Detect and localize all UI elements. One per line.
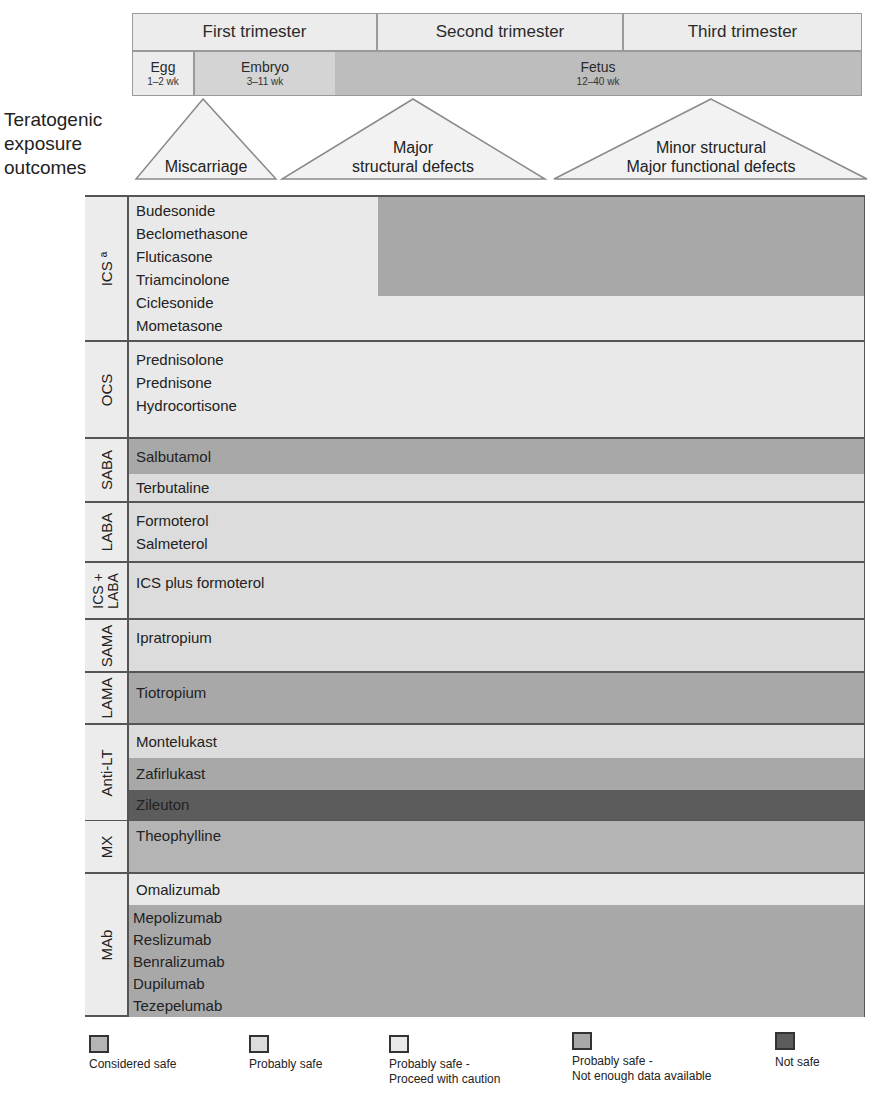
group-label: OCS: [85, 342, 129, 437]
legend-label: Not safe: [775, 1055, 820, 1070]
group-saba: SABA Salbutamol Terbutaline: [85, 437, 865, 501]
stage-name: Embryo: [241, 60, 289, 75]
legend: Considered safe Probably safe Probably s…: [85, 1035, 865, 1110]
group-ics: ICS ª Budesonide Beclomethasone Fluticas…: [85, 195, 865, 340]
drug-row: Omalizumab: [129, 874, 864, 905]
group-lama: LAMA Tiotropium: [85, 671, 865, 723]
drug-row: Prednisolone: [129, 348, 864, 371]
group-label-text: LAMA: [99, 678, 114, 719]
legend-swatch: [249, 1035, 269, 1053]
stage-fetus: Fetus 12–40 wk: [335, 52, 861, 95]
legend-item-not-safe: Not safe: [775, 1032, 820, 1070]
drug-row: Tiotropium: [129, 681, 864, 704]
nodata-region: Mepolizumab Reslizumab Benralizumab Dupi…: [129, 905, 864, 1017]
group-body: Prednisolone Prednisone Hydrocortisone: [129, 342, 865, 437]
group-body: Omalizumab Mepolizumab Reslizumab Benral…: [129, 874, 865, 1015]
group-ics-laba: ICS + LABA ICS plus formoterol: [85, 561, 865, 618]
drug-row: Theophylline: [129, 824, 864, 847]
group-label: ICS ª: [85, 197, 129, 340]
drug-row: Mepolizumab: [129, 907, 864, 929]
group-label-text: LABA: [99, 513, 114, 551]
group-body: Salbutamol Terbutaline: [129, 439, 865, 501]
group-sama: SAMA Ipratropium: [85, 618, 865, 671]
stage-egg: Egg 1–2 wk: [133, 52, 193, 95]
drug-row: Fluticasone: [129, 245, 864, 268]
group-label: LABA: [85, 503, 129, 561]
legend-item-probably-safe: Probably safe: [249, 1035, 322, 1072]
drug-row: Reslizumab: [129, 929, 864, 951]
group-body: Theophylline: [129, 821, 865, 872]
stage-embryo: Embryo 3–11 wk: [195, 52, 335, 95]
legend-swatch: [572, 1032, 592, 1050]
drug-row: Zileuton: [129, 790, 864, 820]
group-label-text: Anti-LT: [99, 749, 114, 796]
drug-row: Mometasone: [129, 314, 864, 337]
group-label-text: SABA: [99, 450, 114, 490]
group-body: ICS plus formoterol: [129, 563, 865, 618]
outcome-line: Miscarriage: [146, 157, 266, 176]
trimester-header: First trimester Second trimester Third t…: [132, 13, 862, 51]
outcome-line: Minor structural: [586, 138, 836, 157]
legend-label: Proceed with caution: [389, 1072, 500, 1087]
drug-row: Beclomethasone: [129, 222, 864, 245]
drug-row: Montelukast: [129, 725, 864, 758]
group-label: LAMA: [85, 673, 129, 723]
trimester-second: Second trimester: [378, 14, 622, 50]
outcome-line: Major: [313, 138, 513, 157]
group-body: Formoterol Salmeterol: [129, 503, 865, 561]
group-label: MAb: [85, 874, 129, 1015]
legend-label: Probably safe: [249, 1057, 322, 1072]
legend-swatch: [775, 1032, 795, 1050]
drug-row: Budesonide: [129, 199, 864, 222]
drug-row: Formoterol: [129, 509, 864, 532]
stage-weeks: 3–11 wk: [247, 76, 284, 87]
legend-swatch: [389, 1035, 409, 1053]
group-body: Budesonide Beclomethasone Fluticasone Tr…: [129, 197, 865, 340]
legend-label: Probably safe -: [572, 1054, 711, 1069]
outcome-major-structural: Major structural defects: [313, 138, 513, 176]
group-ocs: OCS Prednisolone Prednisone Hydrocortiso…: [85, 340, 865, 437]
drug-row: Salbutamol: [129, 439, 864, 474]
group-body: Tiotropium: [129, 673, 865, 723]
group-anti-lt: Anti-LT Montelukast Zafirlukast Zileuton: [85, 723, 865, 820]
outcome-minor-structural: Minor structural Major functional defect…: [586, 138, 836, 176]
legend-label: Considered safe: [89, 1057, 176, 1072]
drug-row: Terbutaline: [129, 474, 864, 501]
drug-row: Prednisone: [129, 371, 864, 394]
group-label-line: ICS +: [91, 573, 106, 609]
drug-row: Dupilumab: [129, 973, 864, 995]
development-stage-row: Egg 1–2 wk Embryo 3–11 wk Fetus 12–40 wk: [132, 51, 862, 96]
group-label-text: SAMA: [99, 624, 114, 667]
drug-row: Ipratropium: [129, 626, 864, 649]
legend-item-not-enough-data: Probably safe - Not enough data availabl…: [572, 1032, 711, 1084]
group-body: Ipratropium: [129, 620, 865, 671]
group-laba: LABA Formoterol Salmeterol: [85, 501, 865, 561]
drug-row: ICS plus formoterol: [129, 571, 864, 594]
group-mx: MX Theophylline: [85, 820, 865, 872]
stage-weeks: 1–2 wk: [147, 76, 179, 87]
group-label: Anti-LT: [85, 725, 129, 820]
legend-item-considered-safe: Considered safe: [89, 1035, 176, 1072]
legend-label: Not enough data available: [572, 1069, 711, 1084]
drug-row: Triamcinolone: [129, 268, 864, 291]
group-label-text: ICS + LABA: [91, 573, 121, 609]
stage-weeks: 12–40 wk: [577, 76, 620, 87]
group-body: Montelukast Zafirlukast Zileuton: [129, 725, 865, 820]
group-label: MX: [85, 821, 129, 872]
group-label-text: ICS ª: [99, 251, 114, 286]
legend-item-proceed-with-caution: Probably safe - Proceed with caution: [389, 1035, 500, 1087]
stage-name: Fetus: [580, 60, 615, 75]
legend-label: Probably safe -: [389, 1057, 500, 1072]
drug-row: Zafirlukast: [129, 758, 864, 790]
group-label-text: OCS: [99, 373, 114, 406]
drug-row: Tezepelumab: [129, 995, 864, 1017]
stage-name: Egg: [151, 60, 176, 75]
group-label-line: LABA: [106, 573, 121, 609]
drug-row: Benralizumab: [129, 951, 864, 973]
group-label: ICS + LABA: [85, 563, 129, 618]
trimester-first: First trimester: [133, 14, 376, 50]
drug-safety-table: ICS ª Budesonide Beclomethasone Fluticas…: [85, 195, 865, 1017]
drug-row: Hydrocortisone: [129, 394, 864, 417]
group-label: SAMA: [85, 620, 129, 671]
drug-row: Ciclesonide: [129, 291, 864, 314]
